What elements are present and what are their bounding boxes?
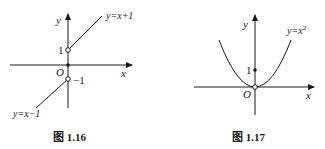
tick-label-neg1: −1 — [73, 74, 85, 86]
curve-label-base: y=x — [286, 25, 303, 36]
figure-caption: 图 1.17 — [232, 131, 266, 143]
open-point-origin — [253, 85, 258, 90]
open-point-0-neg1 — [66, 77, 71, 82]
figure-1-16: y x O 1 −1 y=x+1 y=x−1 图 1.16 — [10, 10, 133, 143]
line-y-equals-x-minus-1 — [36, 79, 68, 108]
filled-point-0-1 — [253, 68, 257, 72]
y-axis-label: y — [242, 18, 248, 30]
curve-label: y=x2 — [286, 24, 307, 36]
figures-canvas: y x O 1 −1 y=x+1 y=x−1 图 1.16 y x O 1 y=… — [0, 0, 325, 149]
origin-label: O — [243, 88, 251, 100]
curve-label-lower: y=x−1 — [12, 108, 40, 119]
origin-label: O — [56, 66, 64, 78]
figure-caption: 图 1.16 — [53, 131, 87, 143]
line-y-equals-x-plus-1 — [68, 16, 102, 50]
figure-1-17: y x O 1 y=x2 图 1.17 — [194, 15, 314, 143]
tick-label-1: 1 — [246, 64, 252, 76]
curve-label-exponent: 2 — [303, 24, 307, 32]
open-point-0-1 — [66, 48, 71, 53]
tick-label-1: 1 — [58, 44, 64, 56]
x-axis-label: x — [120, 67, 126, 79]
x-axis-label: x — [305, 89, 311, 101]
filled-point-origin — [66, 63, 70, 67]
y-axis-label: y — [55, 14, 61, 26]
curve-label-upper: y=x+1 — [105, 10, 133, 21]
